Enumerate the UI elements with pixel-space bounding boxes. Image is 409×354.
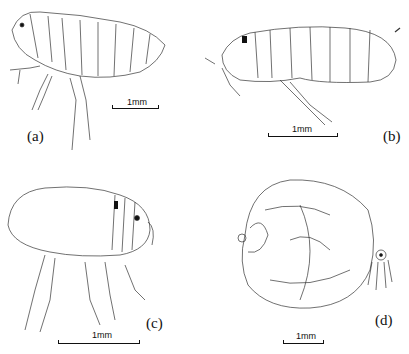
scale-bar-label-a: 1mm [127, 97, 147, 107]
scale-bar-label-d: 1mm [296, 331, 316, 341]
scale-bar-a [112, 108, 159, 109]
scale-bar-b [268, 136, 338, 137]
figure: 1mm (a) 1mm (b) 1mm (c) 1mm (d) [0, 0, 409, 354]
scale-bar-d [283, 343, 324, 344]
panel-label-d: (d) [375, 312, 393, 329]
panel-label-b: (b) [383, 128, 401, 145]
scale-bar-c [58, 343, 140, 344]
flea-b-drawing [205, 27, 400, 125]
flea-c-drawing [8, 187, 153, 332]
panel-label-c: (c) [146, 315, 163, 332]
scale-bar-label-b: 1mm [292, 124, 312, 134]
panel-label-a: (a) [27, 128, 44, 145]
scale-bar-label-c: 1mm [92, 330, 112, 340]
flea-d-drawing [238, 180, 392, 308]
illustrations [0, 0, 409, 354]
